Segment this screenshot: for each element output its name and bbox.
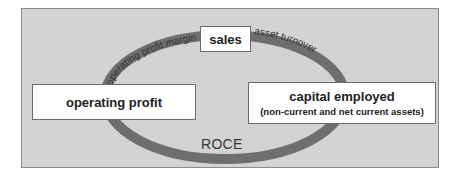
operating-profit-node: operating profit [32,84,196,120]
roce-label: ROCE [201,136,243,152]
capital-employed-subtitle: (non-current and net current assets) [260,106,424,117]
capital-employed-node: capital employed (non-current and net cu… [248,82,436,124]
capital-employed-title: capital employed [289,89,394,104]
operating-profit-label: operating profit [66,95,162,110]
sales-node: sales [200,26,251,52]
sales-label: sales [209,32,242,47]
operating-profit-margin-label: operating profit margin [104,32,197,87]
